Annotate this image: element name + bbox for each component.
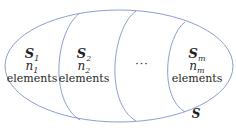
partition-m-elements-label: elements [172,73,223,84]
partition-1-elements-label: elements [7,73,58,84]
outer-set-label: S [192,108,201,120]
partition-2-elements-label: elements [59,73,110,84]
partition-divider-3 [168,22,185,112]
ellipsis: ··· [135,59,149,70]
partition-divider-2 [115,11,136,121]
